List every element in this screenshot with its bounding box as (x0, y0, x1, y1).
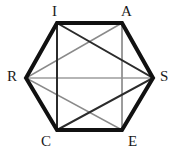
vertex-label-I: I (52, 4, 57, 19)
triangle-are-shape (26, 23, 122, 130)
figure-canvas (0, 0, 178, 156)
vertex-label-R: R (7, 69, 17, 84)
hexagon-outline-shape (26, 23, 153, 130)
geometry-figure: I A S E C R (0, 0, 178, 156)
triangle-isc-shape (57, 23, 153, 130)
vertex-label-A: A (121, 4, 132, 19)
vertex-label-E: E (128, 134, 137, 149)
vertex-label-C: C (41, 134, 51, 149)
vertex-label-S: S (160, 69, 168, 84)
